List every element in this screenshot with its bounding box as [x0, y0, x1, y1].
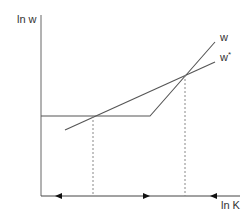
diagram-canvas	[0, 0, 251, 219]
w-star-label: w*	[220, 52, 231, 63]
arrow-left-icon	[210, 193, 217, 199]
w-star-line	[65, 62, 215, 130]
x-axis-label: ln K	[221, 200, 240, 211]
arrow-right-icon	[143, 193, 150, 199]
y-axis-label: ln w	[17, 14, 37, 25]
w-star-label-base: w	[220, 51, 228, 63]
w-curve	[41, 42, 215, 116]
w-star-label-superscript: *	[228, 50, 231, 59]
arrow-left-icon	[55, 193, 62, 199]
w-curve-label: w	[220, 32, 228, 43]
